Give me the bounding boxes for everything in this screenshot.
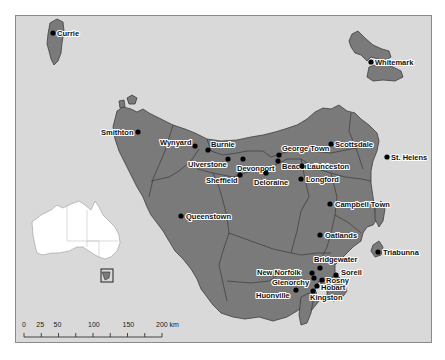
city-label: Devonport [237, 164, 275, 173]
city-label: New Norfolk [257, 268, 302, 277]
scale-label: 0 [22, 321, 26, 328]
scale-label: 150 [123, 321, 135, 328]
islet-nw-1 [127, 95, 137, 104]
city-label: Oatlands [325, 231, 357, 240]
scale-bar: 02550100150200 km [22, 321, 179, 337]
city-dot-icon [327, 201, 332, 206]
city-dot-icon [276, 152, 281, 157]
city-dot-icon [375, 249, 380, 254]
city-dot-icon [299, 163, 304, 168]
city-label: St. Helens [391, 153, 427, 162]
scale-label: 50 [54, 321, 62, 328]
city-marker: Triabunna [375, 248, 419, 257]
city-dot-icon [192, 143, 197, 148]
maria-island [371, 241, 383, 257]
city-label: Deloraine [254, 178, 288, 187]
city-dot-icon [263, 170, 268, 175]
scale-label: 200 km [156, 321, 179, 328]
city-label: Huonville [256, 291, 290, 300]
city-label: Launceston [307, 162, 350, 171]
city-label: Sheffield [206, 176, 238, 185]
city-dot-icon [298, 176, 303, 181]
city-marker: St. Helens [384, 153, 427, 162]
city-dot-icon [237, 172, 242, 177]
city-dot-icon [309, 270, 314, 275]
australia-inset-map [32, 201, 120, 282]
city-dot-icon [311, 275, 316, 280]
city-label: Smithton [101, 128, 134, 137]
city-label: Glenorchy [272, 278, 310, 287]
city-dot-icon [178, 213, 183, 218]
city-dot-icon [293, 287, 298, 292]
city-dot-icon [50, 30, 55, 35]
scale-label: 25 [36, 321, 44, 328]
city-label: Queenstown [186, 212, 231, 221]
city-dot-icon [384, 154, 389, 159]
city-marker: Hobart [314, 283, 345, 292]
city-dot-icon [319, 277, 324, 282]
city-label: Hobart [321, 283, 346, 292]
city-dot-icon [205, 147, 210, 152]
scale-label: 100 [88, 321, 100, 328]
city-label: Ulverstone [188, 160, 227, 169]
city-label: Burnie [211, 140, 235, 149]
tasmania-map: CurrieWhitemarkSmithtonWynyardBurnieUlve… [16, 16, 432, 343]
city-dot-icon [240, 156, 245, 161]
city-marker: Launceston [299, 162, 349, 171]
map-frame: CurrieWhitemarkSmithtonWynyardBurnieUlve… [15, 15, 432, 343]
city-dot-icon [328, 141, 333, 146]
city-label: Whitemark [375, 58, 414, 67]
city-label: George Town [282, 144, 330, 153]
city-marker: Scottsdale [328, 140, 373, 149]
city-label: Kingston [310, 293, 343, 302]
city-label: Longford [306, 175, 339, 184]
king-island [47, 19, 64, 65]
city-label: Scottsdale [335, 140, 373, 149]
flinders-island [349, 31, 391, 61]
city-dot-icon [317, 232, 322, 237]
city-label: Campbell Town [335, 200, 390, 209]
city-label: Currie [57, 29, 79, 38]
city-marker: Queenstown [178, 212, 231, 221]
city-dot-icon [135, 129, 140, 134]
islet-nw-2 [119, 100, 125, 108]
city-dot-icon [317, 265, 322, 270]
city-label: Bridgewater [314, 255, 357, 264]
city-label: Wynyard [160, 138, 192, 147]
city-dot-icon [314, 283, 319, 288]
city-marker: Whitemark [368, 58, 414, 67]
city-dot-icon [275, 158, 280, 163]
city-marker: Campbell Town [327, 200, 390, 209]
city-label: Triabunna [383, 248, 420, 257]
city-dot-icon [368, 59, 373, 64]
